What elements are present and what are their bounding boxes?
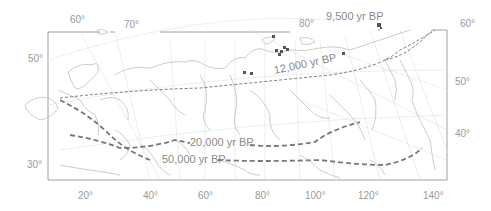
tick-bottom-100: 100° — [305, 190, 326, 201]
map-frame — [48, 30, 447, 180]
tick-right-50: 50° — [455, 76, 470, 87]
tick-bottom-120: 120° — [358, 190, 379, 201]
tick-bottom-80: 80° — [255, 190, 270, 201]
tick-bottom-20: 20° — [78, 190, 93, 201]
eurasia-map — [0, 0, 491, 211]
isochrone-50000 — [60, 100, 422, 165]
tick-top-60-right: 60° — [460, 18, 475, 29]
label-50000-yr-bp: 50,000 yr BP — [162, 153, 226, 165]
boundaries — [25, 29, 435, 178]
tick-right-40: 40° — [455, 128, 470, 139]
tick-bottom-40: 40° — [143, 190, 158, 201]
tick-left-50: 50° — [28, 53, 43, 64]
tick-left-30: 30° — [27, 159, 42, 170]
label-9500-yr-bp: 9,500 yr BP — [326, 10, 383, 22]
tick-top-80: 80° — [299, 18, 314, 29]
label-20000-yr-bp: 20,000 yr BP — [190, 136, 254, 148]
tick-top-70: 70° — [124, 19, 139, 30]
tick-top-60-left: 60° — [70, 14, 85, 25]
graticule — [48, 18, 447, 180]
tick-bottom-140: 140° — [423, 190, 444, 201]
tick-bottom-60: 60° — [198, 190, 213, 201]
